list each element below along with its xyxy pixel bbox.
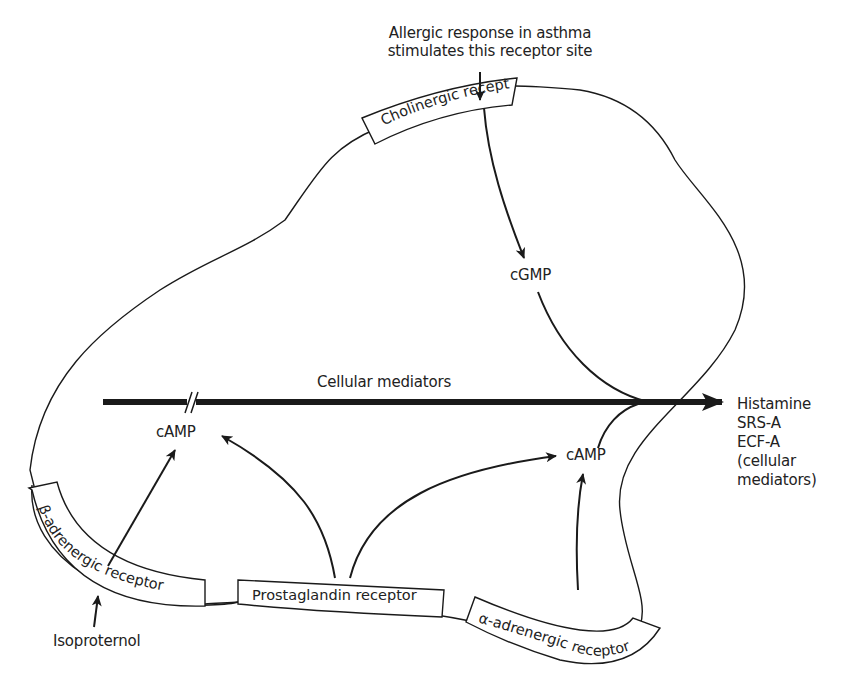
alpha-to-camp-right-arrow — [577, 474, 583, 590]
top-annotation-line2: stimulates this receptor site — [370, 42, 610, 60]
output-note-2: mediators) — [737, 471, 817, 490]
cellular-mediators-label: Cellular mediators — [317, 373, 451, 391]
output-histamine: Histamine — [737, 395, 817, 414]
isoproterenol-label: Isoproternol — [53, 632, 140, 650]
top-annotation-line1: Allergic response in asthma — [370, 24, 610, 42]
prostaglandin-receptor-label: Prostaglandin receptor — [252, 587, 417, 603]
output-srs-a: SRS-A — [737, 414, 817, 433]
top-annotation: Allergic response in asthma stimulates t… — [370, 24, 610, 60]
cgmp-label: cGMP — [510, 266, 551, 284]
camp-right-to-mediators-curve — [598, 404, 638, 448]
cholinergic-to-cgmp-arrow — [484, 108, 524, 258]
diagram-canvas: Cholinergic receptor β-adrenergic recept… — [0, 0, 852, 686]
isoproterenol-arrow — [94, 596, 98, 627]
output-note-1: (cellular — [737, 452, 817, 471]
camp-left-label: cAMP — [156, 423, 196, 441]
beta-to-camp-arrow — [108, 450, 175, 566]
beta-adrenergic-receptor-box — [29, 482, 205, 606]
camp-right-label: cAMP — [566, 446, 606, 464]
outputs-list: Histamine SRS-A ECF-A (cellular mediator… — [737, 395, 817, 490]
cgmp-to-mediators-curve — [538, 292, 648, 402]
cell-membrane — [30, 86, 745, 644]
prostaglandin-to-camp-left-arrow — [222, 436, 335, 578]
output-ecf-a: ECF-A — [737, 433, 817, 452]
prostaglandin-to-camp-right-arrow — [350, 456, 556, 578]
